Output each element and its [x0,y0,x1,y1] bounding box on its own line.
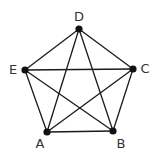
complete-graph-k5: DCEAB [0,0,158,156]
node-a [43,128,50,135]
node-b [109,127,116,134]
nodes [21,25,136,135]
edge-c-a [47,69,133,132]
node-label-e: E [9,62,17,77]
node-label-a: A [36,136,45,151]
node-label-c: C [140,61,149,76]
edge-e-b [25,70,113,131]
edge-d-e [25,29,79,70]
node-label-d: D [74,9,84,24]
edge-c-b [113,69,133,131]
node-e [21,66,28,73]
edge-c-e [25,69,133,70]
edge-a-b [47,131,113,132]
node-d [75,25,82,32]
edge-e-a [25,70,47,132]
node-label-b: B [117,136,126,151]
edge-d-c [79,29,133,69]
node-c [129,65,136,72]
edges [25,29,133,132]
edge-d-b [79,29,113,131]
edge-d-a [47,29,79,132]
